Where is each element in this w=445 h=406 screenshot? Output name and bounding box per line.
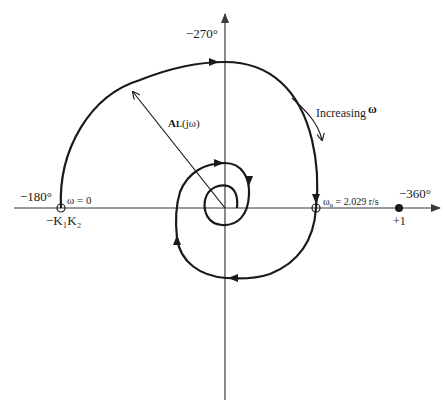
curve-arrow-top	[209, 58, 219, 66]
nyquist-curve	[61, 62, 317, 279]
curve-arrow-crossing	[312, 194, 320, 204]
gain-label: −K₁K₂	[46, 213, 81, 228]
critical-point-marker	[395, 204, 403, 212]
curve-arrow-inner-right	[245, 176, 253, 186]
critical-point-label: +1	[393, 214, 406, 228]
magnitude-vector	[133, 92, 225, 208]
crossover-label: ωu = 2.029 r/s	[323, 196, 379, 209]
angle-label-270: −270°	[186, 26, 218, 41]
omega-zero-label: ω = 0	[67, 194, 92, 206]
curve-arrow-inner-top	[214, 159, 224, 167]
curve-arrow-left	[173, 235, 181, 245]
magnitude-label: AL(jω)	[168, 117, 200, 130]
curve-arrow-bottom	[228, 274, 238, 282]
angle-label-360: −360°	[399, 186, 431, 201]
increasing-omega-label: Increasingω	[316, 102, 377, 120]
angle-label-180: −180°	[20, 189, 52, 204]
nyquist-diagram: −270° −180° −360° ω = 0 −K₁K₂ ωu = 2.029…	[0, 0, 445, 406]
